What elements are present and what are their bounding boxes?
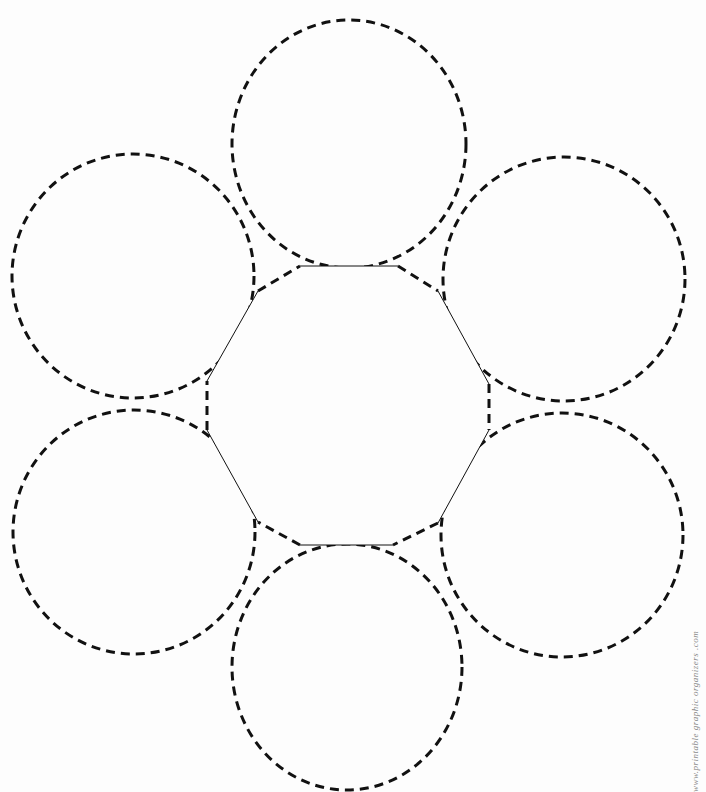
- graphic-organizer-diagram: [0, 0, 706, 792]
- credit-text: www.printable graphic organizers .com: [690, 631, 700, 792]
- circle-top: [232, 20, 466, 268]
- circle-top-right: [443, 157, 685, 401]
- circle-bottom: [232, 544, 462, 790]
